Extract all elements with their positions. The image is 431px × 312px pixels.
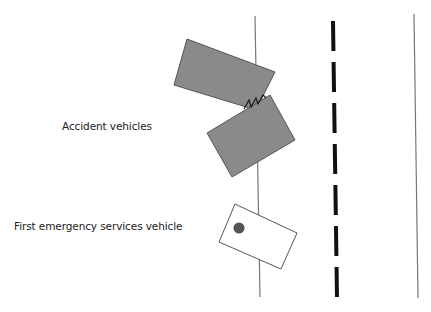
accident-vehicle-1 bbox=[174, 39, 275, 110]
accident-diagram bbox=[0, 0, 431, 312]
road-edge-line bbox=[414, 14, 418, 298]
accident-vehicles-label: Accident vehicles bbox=[62, 120, 152, 132]
first-emergency-vehicle-label: First emergency services vehicle bbox=[14, 220, 182, 232]
emergency-light-icon bbox=[234, 223, 245, 234]
dashed-lane-line bbox=[333, 21, 337, 298]
